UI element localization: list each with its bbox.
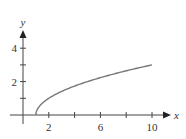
x-tick-label-6: 6 xyxy=(98,121,104,133)
y-axis-arrow-icon xyxy=(20,30,27,38)
function-curve xyxy=(36,65,152,115)
x-tick-label-10: 10 xyxy=(147,121,159,133)
x-axis-arrow-icon xyxy=(163,112,171,119)
y-axis-label: y xyxy=(20,16,26,28)
y-tick-label-2: 2 xyxy=(12,76,18,88)
x-axis-label: x xyxy=(173,109,179,121)
chart: 2 6 10 2 4 x y xyxy=(0,0,186,139)
x-tick-label-2: 2 xyxy=(46,121,52,133)
y-tick-label-4: 4 xyxy=(12,42,18,54)
